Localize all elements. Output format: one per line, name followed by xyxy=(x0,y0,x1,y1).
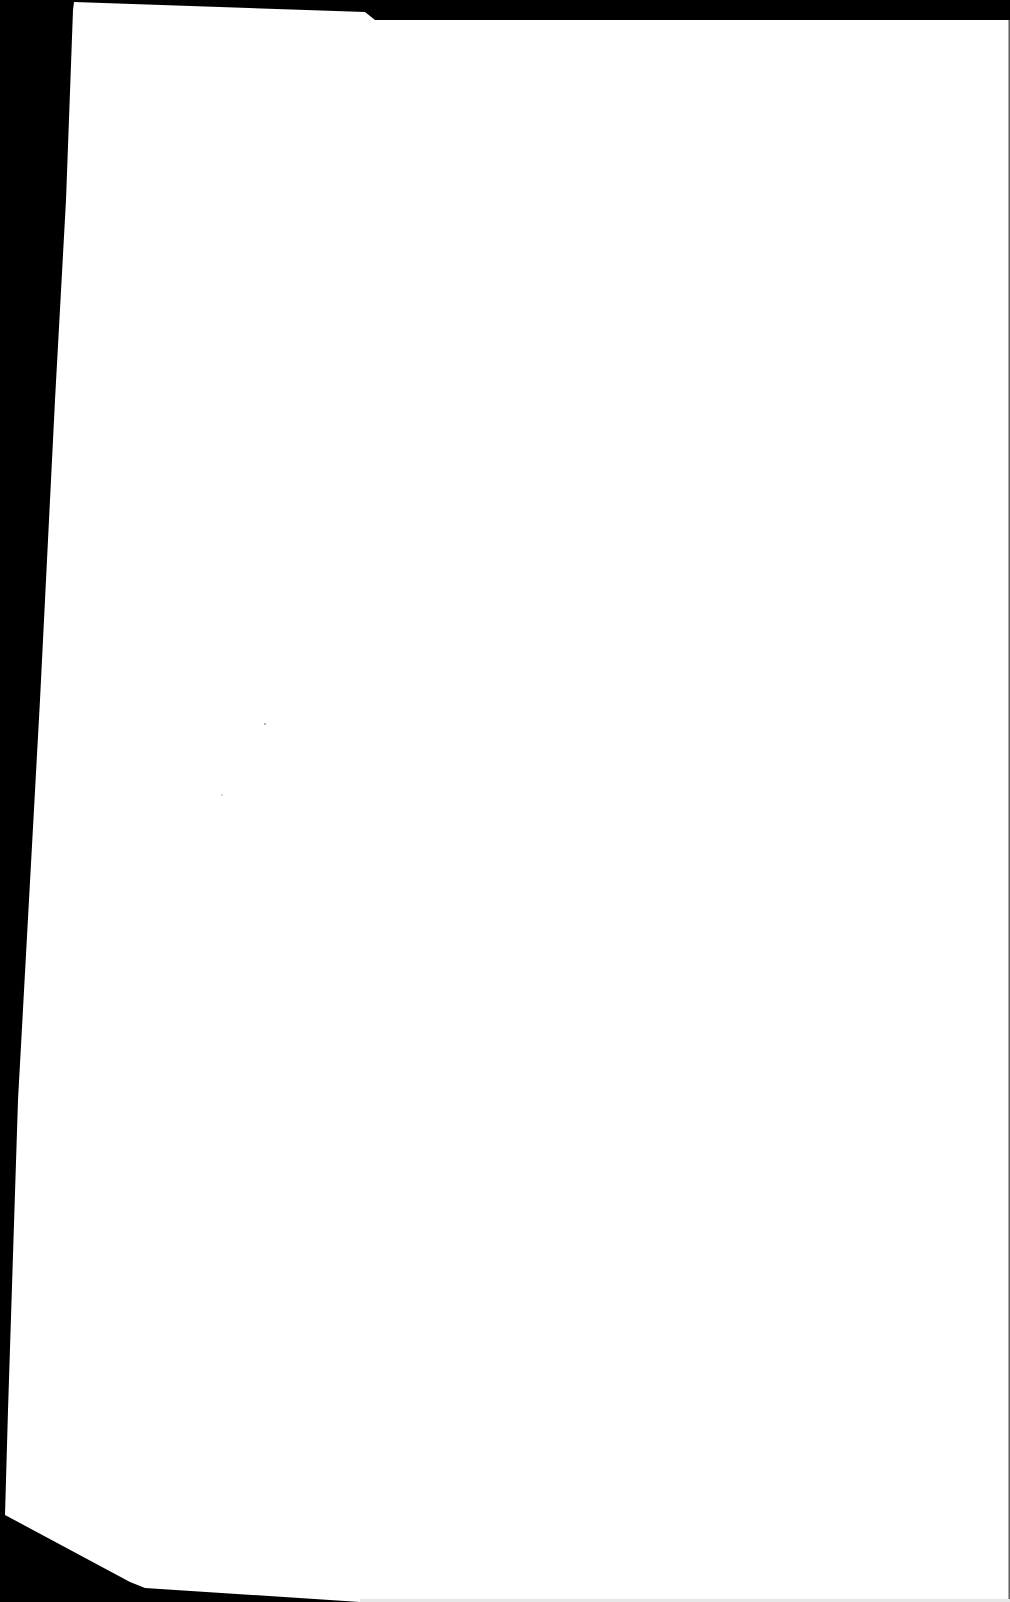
dust-speck xyxy=(221,794,223,796)
dust-speck xyxy=(264,723,266,725)
blank-paper-page xyxy=(0,0,1010,1602)
scan-background xyxy=(0,0,1010,1602)
